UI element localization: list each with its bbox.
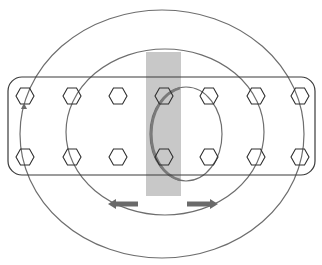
hexagon-icon (291, 149, 309, 165)
hexagon-icon (155, 149, 173, 165)
hexagon-icon (109, 88, 127, 104)
diagram-svg (0, 0, 322, 265)
diagram-canvas (0, 0, 322, 265)
hexagon-icon (155, 88, 173, 104)
hexagon-icon (16, 149, 34, 165)
hexagon-icon (247, 88, 265, 104)
hexagon-icon (200, 149, 218, 165)
hexagon-icon (16, 88, 34, 104)
hexagon-icon (63, 149, 81, 165)
right-arrow-icon (210, 199, 218, 209)
hexagon-icon (109, 149, 127, 165)
hexagon-icon (291, 88, 309, 104)
hexagon-icon (247, 149, 265, 165)
hexagon-icon (63, 88, 81, 104)
hexagon-icon (200, 88, 218, 104)
